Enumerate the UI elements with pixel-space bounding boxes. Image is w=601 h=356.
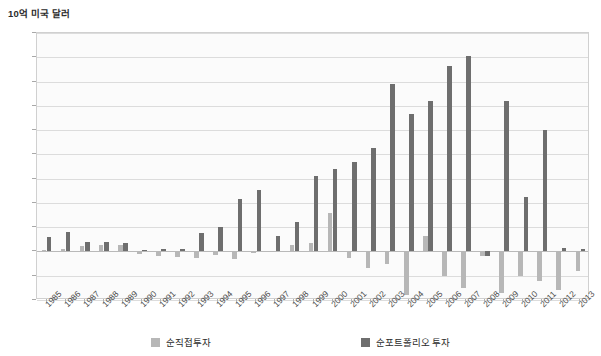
bar-portfolio-2011 <box>543 130 548 251</box>
bar-portfolio-2012 <box>562 248 567 252</box>
bar-fdi-2010 <box>518 251 523 275</box>
y-axis-tick <box>32 81 36 82</box>
x-axis-tick <box>579 299 580 302</box>
bar-fdi-1996 <box>251 251 256 252</box>
bar-portfolio-2007 <box>466 56 471 251</box>
bar-fdi-2009 <box>499 251 504 292</box>
y-axis-tick <box>32 178 36 179</box>
y-axis-tick <box>32 56 36 57</box>
bar-fdi-1993 <box>194 251 199 257</box>
bar-portfolio-2001 <box>352 162 357 252</box>
x-axis-tick <box>236 299 237 302</box>
x-axis-tick <box>46 299 47 302</box>
bar-portfolio-1993 <box>199 233 204 251</box>
y-axis-tick <box>32 32 36 33</box>
y-axis-tick <box>32 275 36 276</box>
x-axis-tick <box>217 299 218 302</box>
x-axis-tick <box>65 299 66 302</box>
bar-fdi-2002 <box>366 251 371 268</box>
bar-fdi-1985 <box>42 250 47 251</box>
bar-portfolio-1995 <box>238 199 243 251</box>
bar-fdi-2013 <box>576 251 581 270</box>
legend-swatch-icon <box>361 338 370 347</box>
x-axis-tick <box>427 299 428 302</box>
bar-portfolio-1999 <box>314 176 319 251</box>
bar-fdi-1994 <box>213 251 218 255</box>
plot-inner <box>37 33 588 298</box>
bar-fdi-2004 <box>404 251 409 295</box>
x-axis-tick <box>84 299 85 302</box>
x-axis-tick <box>122 299 123 302</box>
bar-fdi-2003 <box>385 251 390 263</box>
bar-portfolio-1985 <box>47 237 52 252</box>
x-axis-tick <box>465 299 466 302</box>
bar-fdi-1999 <box>309 243 314 251</box>
bar-fdi-1986 <box>61 249 66 251</box>
bar-fdi-2011 <box>537 251 542 280</box>
legend-swatch-icon <box>151 338 160 347</box>
bar-portfolio-2008 <box>485 251 490 256</box>
bar-portfolio-1987 <box>85 242 90 251</box>
bar-portfolio-1990 <box>142 250 147 251</box>
bar-portfolio-2002 <box>371 148 376 251</box>
bar-portfolio-1986 <box>66 232 71 251</box>
bar-fdi-1988 <box>99 245 104 252</box>
bar-portfolio-1992 <box>180 249 185 251</box>
legend-label: 순직접투자 <box>166 335 211 349</box>
bar-fdi-2006 <box>442 251 447 275</box>
x-axis-tick <box>293 299 294 302</box>
bar-portfolio-2000 <box>333 169 338 252</box>
y-axis-tick <box>32 299 36 300</box>
bar-portfolio-2006 <box>447 66 452 252</box>
bar-fdi-2012 <box>556 251 561 290</box>
chart-legend: 순직접투자순포트폴리오 투자 <box>0 334 601 350</box>
x-axis-tick <box>332 299 333 302</box>
x-axis-tick <box>446 299 447 302</box>
x-axis-tick <box>522 299 523 302</box>
x-axis-tick <box>274 299 275 302</box>
x-axis-tick <box>389 299 390 302</box>
bar-fdi-1991 <box>156 251 161 255</box>
chart-axis-title: 10억 미국 달러 <box>8 6 70 20</box>
bar-portfolio-2003 <box>390 84 395 251</box>
legend-item-fdi[interactable]: 순직접투자 <box>151 335 211 349</box>
gridline <box>37 33 588 34</box>
bar-portfolio-1989 <box>123 243 128 251</box>
x-axis-tick <box>370 299 371 302</box>
bar-fdi-2001 <box>347 251 352 257</box>
bar-fdi-1990 <box>137 251 142 254</box>
bar-fdi-2007 <box>461 251 466 287</box>
y-axis-tick <box>32 105 36 106</box>
zero-line <box>37 251 588 252</box>
bar-fdi-1997 <box>270 251 275 252</box>
x-axis-tick <box>541 299 542 302</box>
x-axis-tick <box>408 299 409 302</box>
x-axis-tick <box>351 299 352 302</box>
bar-portfolio-1996 <box>257 190 262 252</box>
y-axis-tick <box>32 202 36 203</box>
y-axis-tick <box>32 250 36 251</box>
x-axis-tick <box>160 299 161 302</box>
bar-portfolio-1998 <box>295 222 300 251</box>
bar-fdi-1987 <box>80 246 85 251</box>
y-axis-tick <box>32 153 36 154</box>
bar-portfolio-2009 <box>504 101 509 251</box>
chart-container: 10억 미국 달러 9008007006005004003002001000−1… <box>0 0 601 356</box>
bar-fdi-2008 <box>480 251 485 256</box>
bar-portfolio-2010 <box>524 197 529 252</box>
bar-portfolio-1997 <box>276 236 281 252</box>
legend-label: 순포트폴리오 투자 <box>376 335 451 349</box>
bar-fdi-1995 <box>232 251 237 258</box>
x-axis-tick <box>141 299 142 302</box>
x-axis-tick <box>179 299 180 302</box>
bar-fdi-1998 <box>290 245 295 251</box>
gridline <box>37 82 588 83</box>
plot-area <box>36 32 589 299</box>
bar-fdi-1989 <box>118 245 123 251</box>
y-axis-tick <box>32 129 36 130</box>
bar-portfolio-2005 <box>428 101 433 251</box>
bar-portfolio-1988 <box>104 242 109 251</box>
legend-item-portfolio[interactable]: 순포트폴리오 투자 <box>361 335 451 349</box>
x-axis-tick <box>198 299 199 302</box>
x-axis-tick <box>503 299 504 302</box>
